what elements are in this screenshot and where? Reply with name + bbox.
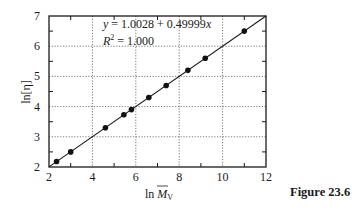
data-point	[163, 83, 169, 89]
r-squared-annotation: R2 = 1.000	[102, 33, 154, 48]
fit-line	[49, 16, 266, 167]
x-tick-labels: 24681012	[46, 170, 272, 184]
xlabel-sub: V	[167, 193, 173, 202]
x-tick-label: 10	[217, 170, 229, 184]
data-point	[103, 125, 109, 131]
y-tick-label: 5	[34, 69, 40, 83]
r2-rest: = 1.000	[114, 34, 154, 48]
figure-caption: Figure 23.6	[290, 185, 350, 200]
y-tick-label: 3	[34, 130, 40, 144]
x-tick-label: 6	[133, 170, 139, 184]
y-axis-label: ln[η]	[19, 80, 33, 104]
x-axis-label: ln MV	[145, 187, 173, 202]
y-tick-labels: 234567	[34, 9, 40, 174]
y-tick-label: 2	[34, 160, 40, 174]
y-tick-label: 6	[34, 39, 40, 53]
data-point	[129, 107, 135, 113]
data-point	[202, 55, 208, 61]
x-tick-label: 8	[176, 170, 182, 184]
y-tick-label: 4	[34, 100, 40, 114]
x-tick-label: 2	[46, 170, 52, 184]
data-point	[54, 159, 60, 165]
xlabel-ln: ln	[145, 187, 157, 201]
eq-x: x	[205, 17, 212, 31]
data-point	[68, 149, 74, 155]
data-point	[242, 28, 248, 34]
equation-annotation: y = 1.0028 + 0.49999x	[102, 17, 212, 31]
chart-figure: 24681012 234567 y = 1.0028 + 0.49999x R2…	[0, 0, 352, 214]
x-tick-label: 12	[260, 170, 272, 184]
data-point	[185, 68, 191, 74]
data-point	[146, 95, 152, 101]
x-tick-label: 4	[89, 170, 95, 184]
data-point	[121, 112, 127, 118]
y-tick-label: 7	[34, 9, 40, 23]
eq-rest: = 1.0028 + 0.49999	[108, 17, 206, 31]
